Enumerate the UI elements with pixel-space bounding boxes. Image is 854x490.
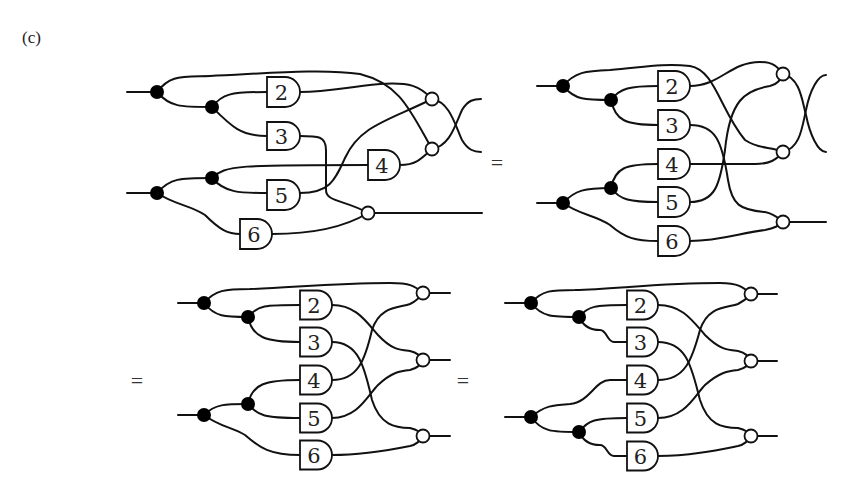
equals-sign: = bbox=[491, 150, 503, 175]
copy-node bbox=[241, 310, 255, 324]
gate-label: 3 bbox=[275, 125, 288, 149]
copy-node bbox=[556, 196, 570, 210]
gate-label: 6 bbox=[634, 445, 647, 469]
gate-2: 2 bbox=[658, 71, 690, 101]
merge-node bbox=[745, 288, 758, 301]
gate-label: 2 bbox=[665, 75, 678, 99]
gate-4: 4 bbox=[658, 149, 690, 179]
gate-3: 3 bbox=[627, 328, 658, 357]
gate-label: 3 bbox=[665, 114, 678, 138]
gate-6: 6 bbox=[240, 219, 272, 249]
gate-label: 4 bbox=[307, 369, 320, 393]
circuit-figure: (c) 23456 = bbox=[0, 0, 854, 490]
gate-label: 2 bbox=[634, 294, 647, 318]
panel-label: (c) bbox=[22, 28, 41, 47]
merge-node bbox=[777, 216, 790, 229]
merge-node bbox=[745, 430, 758, 443]
gate-2: 2 bbox=[300, 291, 332, 320]
gate-6: 6 bbox=[658, 226, 690, 256]
gate-label: 5 bbox=[275, 184, 288, 208]
gate-4: 4 bbox=[627, 366, 658, 395]
copy-node bbox=[556, 79, 570, 93]
copy-node bbox=[150, 186, 164, 200]
gate-label: 3 bbox=[634, 331, 647, 355]
gate-4: 4 bbox=[368, 150, 400, 180]
merge-node bbox=[426, 143, 439, 156]
copy-node bbox=[572, 310, 586, 324]
gate-label: 5 bbox=[634, 407, 647, 431]
copy-node bbox=[572, 425, 586, 439]
merge-node bbox=[426, 93, 439, 106]
copy-node bbox=[604, 181, 618, 195]
gate-label: 4 bbox=[634, 369, 647, 393]
gate-4: 4 bbox=[300, 366, 332, 395]
gate-6: 6 bbox=[300, 441, 332, 470]
copy-node bbox=[241, 397, 255, 411]
merge-node bbox=[777, 68, 790, 81]
gate-label: 2 bbox=[307, 294, 320, 318]
diagram-top-left: 23456 bbox=[127, 71, 482, 249]
copy-node bbox=[205, 171, 219, 185]
copy-node bbox=[150, 85, 164, 99]
diagram-bottom-left: 23456 bbox=[178, 283, 450, 470]
gate-6: 6 bbox=[627, 442, 658, 471]
copy-node bbox=[205, 100, 219, 114]
copy-node bbox=[197, 408, 211, 422]
gate-label: 4 bbox=[665, 153, 678, 177]
diagram-top-right: 23456 bbox=[537, 62, 826, 256]
gate-label: 4 bbox=[375, 154, 388, 178]
gate-5: 5 bbox=[627, 404, 658, 433]
copy-node bbox=[604, 93, 618, 107]
gate-2: 2 bbox=[267, 77, 300, 107]
diagram-bottom-right: 23456 bbox=[505, 283, 777, 471]
gate-label: 6 bbox=[665, 230, 678, 254]
gate-5: 5 bbox=[300, 404, 332, 433]
copy-node bbox=[524, 410, 538, 424]
copy-node bbox=[524, 296, 538, 310]
merge-node bbox=[417, 354, 430, 367]
equals-sign: = bbox=[131, 368, 143, 393]
gate-label: 6 bbox=[307, 444, 320, 468]
merge-node bbox=[417, 430, 430, 443]
gate-3: 3 bbox=[658, 110, 690, 140]
gate-5: 5 bbox=[267, 180, 300, 210]
gate-label: 3 bbox=[307, 331, 320, 355]
copy-node bbox=[197, 296, 211, 310]
gate-label: 5 bbox=[307, 407, 320, 431]
gate-label: 5 bbox=[665, 191, 678, 215]
gate-5: 5 bbox=[658, 187, 690, 217]
merge-node bbox=[745, 355, 758, 368]
gate-3: 3 bbox=[300, 328, 332, 357]
gate-2: 2 bbox=[627, 291, 658, 320]
gate-label: 6 bbox=[247, 223, 260, 247]
gate-3: 3 bbox=[267, 122, 300, 150]
merge-node bbox=[417, 287, 430, 300]
merge-node bbox=[777, 146, 790, 159]
gate-label: 2 bbox=[275, 81, 288, 105]
merge-node bbox=[362, 207, 375, 220]
equals-sign: = bbox=[457, 368, 469, 393]
